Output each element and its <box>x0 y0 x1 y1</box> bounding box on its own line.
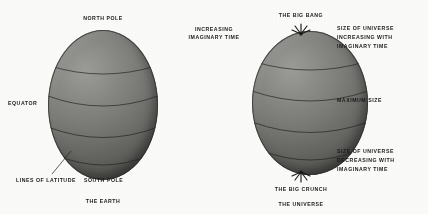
label-size-decreasing-line2: DECREASING WITH <box>337 156 395 164</box>
label-the-big-bang: THE BIG BANG <box>279 11 323 19</box>
label-the-big-crunch: THE BIG CRUNCH <box>275 185 328 193</box>
label-size-increasing-line1: SIZE OF UNIVERSE <box>337 24 394 32</box>
label-size-increasing-line2: INCREASING WITH <box>337 33 393 41</box>
caption-the-universe: THE UNIVERSE <box>279 200 324 208</box>
label-lines-of-latitude: LINES OF LATITUDE <box>16 176 76 184</box>
label-maximum-size: MAXIMUM SIZE <box>337 96 382 104</box>
figure-canvas: NORTH POLE EQUATOR SOUTH POLE LINES OF L… <box>0 0 428 214</box>
caption-the-earth: THE EARTH <box>86 197 121 205</box>
label-size-decreasing-line3: IMAGINARY TIME <box>337 165 388 173</box>
label-size-decreasing-line1: SIZE OF UNIVERSE <box>337 147 394 155</box>
label-size-increasing-line3: IMAGINARY TIME <box>337 42 388 50</box>
big-bang-starburst-icon <box>290 22 312 38</box>
label-increasing-imaginary-time-line2: IMAGINARY TIME <box>189 33 240 41</box>
big-crunch-starburst-icon <box>290 168 312 184</box>
label-increasing-imaginary-time-line1: INCREASING <box>195 25 233 33</box>
